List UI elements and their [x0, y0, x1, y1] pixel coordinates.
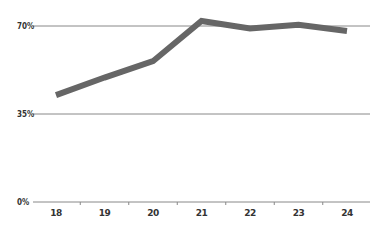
x-tick-label: 23: [293, 208, 305, 218]
x-tick-label: 20: [147, 208, 159, 218]
y-tick-label: 0%: [17, 198, 29, 207]
line-chart: 0%35%70% 18192021222324: [0, 0, 390, 240]
y-tick-label: 35%: [17, 110, 34, 119]
gridlines: [33, 26, 370, 202]
y-axis-labels: 0%35%70%: [17, 22, 34, 207]
x-tick-label: 18: [50, 208, 62, 218]
y-tick-label: 70%: [17, 22, 34, 31]
x-tick-label: 24: [341, 208, 353, 218]
x-axis: 18192021222324: [50, 202, 353, 218]
x-tick-label: 22: [244, 208, 256, 218]
x-tick-label: 21: [196, 208, 208, 218]
x-tick-label: 19: [99, 208, 111, 218]
data-line: [56, 21, 347, 95]
